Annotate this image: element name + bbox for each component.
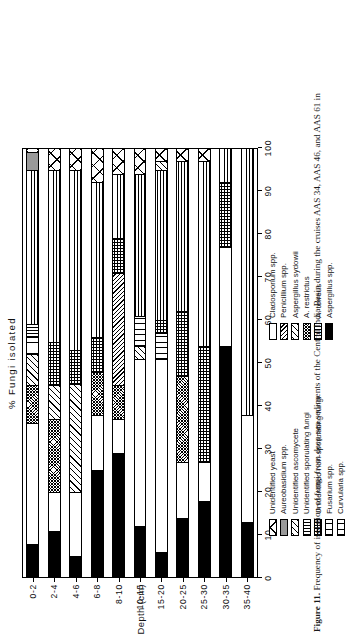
legend-right-item: Aspergillus spp. xyxy=(325,251,334,340)
bar-row xyxy=(219,148,232,578)
bar-row xyxy=(91,148,104,578)
bar-segment xyxy=(241,522,254,578)
legend-left-label: Curvularia spp. xyxy=(336,461,345,514)
y-tick xyxy=(226,578,227,582)
legend-left-label: Aureobasidium spp. xyxy=(279,444,288,514)
bar-segment xyxy=(134,316,147,346)
legend-left-item: Unidentified sporulating fungi xyxy=(302,396,311,536)
bar-segment xyxy=(91,182,104,337)
y-tick-label: 0-2 xyxy=(28,584,38,640)
legend-right-label: A. restrictus xyxy=(302,276,311,318)
x-tick xyxy=(258,362,262,363)
bar-segment xyxy=(69,385,82,493)
legend-left-item: Curvularia spp. xyxy=(336,396,345,536)
y-tick-label: 20-25 xyxy=(178,584,188,640)
x-tick-label: 90 xyxy=(263,185,273,196)
bar-segment xyxy=(48,148,61,170)
y-tick-label: 25-30 xyxy=(199,584,209,640)
bar-segment xyxy=(112,273,125,385)
bar-segment xyxy=(26,148,39,152)
y-tick-label: 2-4 xyxy=(49,584,59,640)
legend-left-label: Unidentified ascomycete xyxy=(291,428,300,514)
y-tick xyxy=(204,578,205,582)
legend-right-item: Penicillium spp. xyxy=(279,251,288,340)
bar-segment xyxy=(176,462,189,518)
bar-segment xyxy=(176,148,189,161)
bar-segment xyxy=(69,492,82,557)
chart-area: 0102030405060708090100 0-22-44-66-88-101… xyxy=(22,148,258,578)
bar-segment xyxy=(69,350,82,384)
x-tick xyxy=(258,190,262,191)
bar-segment xyxy=(155,161,168,170)
bar-segment xyxy=(198,148,211,161)
bar-segment xyxy=(112,238,125,272)
legend-left-swatch-icon xyxy=(303,519,311,536)
legend-left-item: Aureobasidium spp. xyxy=(279,396,288,536)
bar-segment xyxy=(198,462,211,501)
bar-segment xyxy=(219,148,232,182)
bar-segment xyxy=(26,385,39,424)
bar-segment xyxy=(69,170,82,351)
bar-row xyxy=(112,148,125,578)
bar-segment xyxy=(48,531,61,578)
x-tick-label: 50 xyxy=(263,357,273,368)
y-tick-label: 15-20 xyxy=(156,584,166,640)
legend-left-item: Unidentified yeast xyxy=(268,396,277,536)
bar-segment xyxy=(91,372,104,415)
bar-segment xyxy=(91,148,104,182)
bar-segment xyxy=(112,174,125,239)
bar-segment xyxy=(219,346,232,578)
bar-segment xyxy=(48,385,61,419)
x-tick xyxy=(258,448,262,449)
bar-segment xyxy=(176,518,189,578)
bar-segment xyxy=(91,471,104,579)
y-tick-label: 4-6 xyxy=(71,584,81,640)
legend-right-label: Cladosporium spp. xyxy=(268,252,277,318)
bar-segment xyxy=(176,311,189,376)
y-tick xyxy=(247,578,248,582)
legend-right-swatch-icon xyxy=(291,323,299,340)
legend-left: Unidentified yeastAureobasidium spp.Unid… xyxy=(268,396,348,536)
y-tick-label: 30-35 xyxy=(221,584,231,640)
bar-segment xyxy=(26,337,39,354)
legend-left-item: Unidentified ascomycete xyxy=(291,396,300,536)
bar-segment xyxy=(155,359,168,553)
y-tick-label: 8-10 xyxy=(114,584,124,640)
y-tick xyxy=(97,578,98,582)
bar-segment xyxy=(198,501,211,578)
bar-row xyxy=(198,148,211,578)
bar-segment xyxy=(48,342,61,385)
bar-row xyxy=(155,148,168,578)
y-axis-title: Depth (cm) xyxy=(135,584,146,634)
bar-segment xyxy=(26,152,39,169)
bar-segment xyxy=(134,526,147,578)
x-tick-label: 80 xyxy=(263,228,273,239)
legend-right-item: A. restrictus xyxy=(302,251,311,340)
bar-row xyxy=(176,148,189,578)
bar-segment xyxy=(198,346,211,462)
bar-row xyxy=(26,148,39,578)
legend-left-label: Unidentified sporulating fungi xyxy=(302,412,311,514)
bar-segment xyxy=(48,419,61,492)
y-tick xyxy=(183,578,184,582)
x-tick xyxy=(258,577,262,578)
bar-segment xyxy=(155,320,168,333)
x-axis-title: % Fungi isolated xyxy=(6,148,17,578)
bar-row xyxy=(48,148,61,578)
bar-segment xyxy=(26,170,39,325)
bar-segment xyxy=(219,182,232,247)
bar-segment xyxy=(112,385,125,419)
y-tick xyxy=(119,578,120,582)
bar-segment xyxy=(241,148,254,415)
bar-segment xyxy=(155,148,168,161)
x-tick xyxy=(258,491,262,492)
legend-right-label: Aspergillus spp. xyxy=(325,262,334,318)
legend-left-swatch-icon xyxy=(325,519,333,536)
bar-segment xyxy=(26,324,39,337)
legend-right-swatch-icon xyxy=(269,323,277,340)
bar-segment xyxy=(26,354,39,384)
bar-segment xyxy=(134,346,147,359)
bar-segment xyxy=(134,148,147,174)
legend-right-item: Aspergillus sydowii xyxy=(291,251,300,340)
